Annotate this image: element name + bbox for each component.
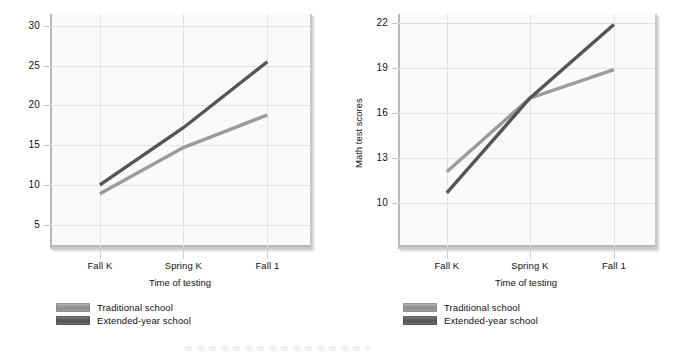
y-axis-tick-label: 10: [364, 197, 388, 208]
legend-item-extended: Extended-year school: [56, 315, 191, 326]
x-axis-tick-label: Spring K: [165, 260, 202, 271]
x-tick-mark: [267, 249, 268, 259]
y-tick-mark: [44, 105, 50, 106]
y-axis-tick-label: 13: [364, 152, 388, 163]
y-tick-mark: [44, 66, 50, 67]
y-tick-mark: [44, 225, 50, 226]
legend-item-traditional: Traditional school: [56, 302, 191, 313]
x-axis-tick-label: Fall 1: [602, 260, 626, 271]
legend-label-extended: Extended-year school: [97, 315, 191, 326]
x-tick-mark: [183, 249, 184, 259]
y-axis-tick-label: 20: [16, 99, 40, 110]
x-tick-mark: [614, 249, 615, 259]
legend-left: Traditional school Extended-year school: [56, 302, 191, 328]
legend-swatch-traditional-icon: [403, 303, 437, 312]
legend-swatch-traditional-icon: [56, 303, 90, 312]
y-tick-mark: [44, 145, 50, 146]
y-axis-tick-label: 5: [16, 219, 40, 230]
y-axis-tick-label: 19: [364, 62, 388, 73]
series-lines-left: [50, 14, 310, 247]
x-tick-mark: [100, 249, 101, 259]
x-axis-tick-label: Spring K: [511, 260, 548, 271]
legend-item-traditional: Traditional school: [403, 302, 538, 313]
plot-area-left: [50, 14, 312, 249]
series-line: [447, 70, 614, 172]
y-tick-mark: [392, 113, 398, 114]
legend-label-traditional: Traditional school: [444, 302, 520, 313]
plot-area-right: [398, 14, 657, 249]
legend-swatch-extended-icon: [56, 316, 90, 325]
x-axis-tick-label: Fall K: [434, 260, 459, 271]
figure-canvas: 51015202530 Fall KSpring KFall 1 Time of…: [0, 0, 678, 353]
y-tick-mark: [392, 68, 398, 69]
series-line: [447, 25, 614, 193]
x-tick-mark: [530, 249, 531, 259]
y-tick-mark: [392, 158, 398, 159]
y-axis-tick-label: 25: [16, 60, 40, 71]
legend-label-traditional: Traditional school: [97, 302, 173, 313]
legend-swatch-extended-icon: [403, 316, 437, 325]
page-footer-artifact: [185, 346, 370, 351]
x-axis-tick-label: Fall K: [87, 260, 112, 271]
x-tick-mark: [447, 249, 448, 259]
legend-right: Traditional school Extended-year school: [403, 302, 538, 328]
y-axis-tick-label: 16: [364, 107, 388, 118]
x-axis-title-left: Time of testing: [149, 277, 211, 288]
y-axis-tick-label: 10: [16, 179, 40, 190]
y-tick-mark: [392, 23, 398, 24]
y-axis-tick-label: 30: [16, 20, 40, 31]
y-tick-mark: [44, 26, 50, 27]
x-axis-title-right: Time of testing: [495, 277, 557, 288]
series-lines-right: [398, 14, 655, 247]
y-axis-tick-label: 22: [364, 17, 388, 28]
y-axis-title-right: Math test scores: [353, 98, 364, 168]
legend-item-extended: Extended-year school: [403, 315, 538, 326]
chart-panel-right: 1013161922 Fall KSpring KFall 1 Time of …: [339, 0, 678, 353]
y-tick-mark: [44, 185, 50, 186]
chart-panel-left: 51015202530 Fall KSpring KFall 1 Time of…: [0, 0, 339, 353]
y-axis-tick-label: 15: [16, 139, 40, 150]
legend-label-extended: Extended-year school: [444, 315, 538, 326]
y-tick-mark: [392, 203, 398, 204]
x-axis-tick-label: Fall 1: [255, 260, 279, 271]
